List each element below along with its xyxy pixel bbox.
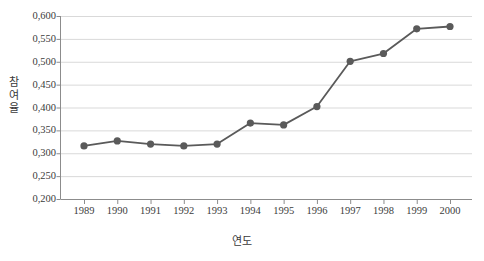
- x-axis-tick-label: 2000: [427, 205, 473, 217]
- x-axis-title: 연도: [0, 232, 484, 248]
- x-axis-tick-labels: 1989199019911992199319941995199619971998…: [0, 0, 484, 261]
- participation-rate-line-chart: 참 여 율 0,6000,5500,5000,4500,4000,3500,30…: [0, 0, 484, 261]
